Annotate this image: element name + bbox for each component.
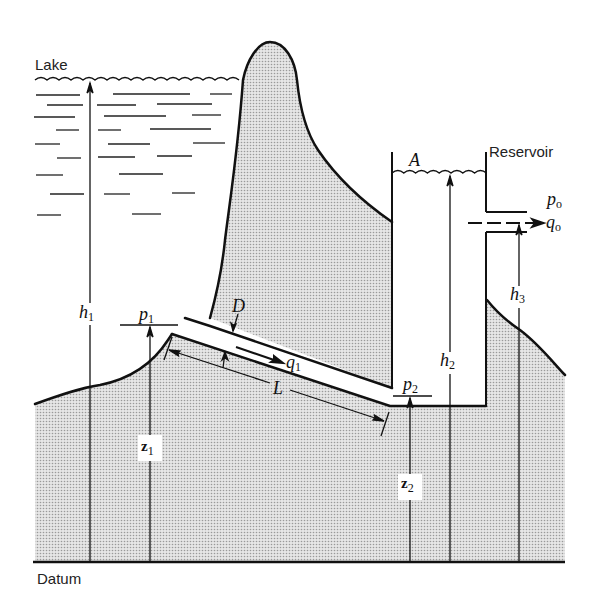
p1-label: p1 <box>137 304 154 326</box>
po-label: po <box>545 189 562 211</box>
D-arrowhead-top <box>231 323 236 331</box>
length-label: L <box>272 378 283 398</box>
lake-water-lines <box>34 94 232 215</box>
reservoir-label: Reservoir <box>489 143 553 160</box>
lake-surface <box>35 78 239 81</box>
diameter-label: D <box>231 296 245 316</box>
qo-label: qo <box>546 212 561 234</box>
reservoir-surface <box>392 171 486 174</box>
hydraulic-diagram: Lake Reservoir Datum A D L p1 p2 po qo q… <box>0 0 597 596</box>
datum-label: Datum <box>37 570 81 587</box>
p2-label: p2 <box>401 374 418 396</box>
area-label: A <box>408 150 421 170</box>
lake-label: Lake <box>35 56 68 73</box>
